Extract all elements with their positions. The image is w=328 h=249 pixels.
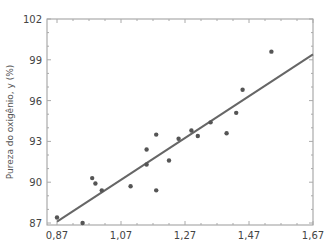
- y-tick-label: 102: [23, 14, 42, 25]
- data-point: [240, 88, 244, 92]
- data-point: [269, 49, 273, 53]
- data-point: [144, 147, 148, 151]
- regression-line: [57, 54, 313, 221]
- x-tick-label: 0,87: [46, 230, 68, 241]
- data-point: [100, 188, 104, 192]
- plot-area: [47, 19, 313, 225]
- x-tick-label: 1,27: [174, 230, 196, 241]
- data-point: [154, 132, 158, 136]
- data-point: [90, 176, 94, 180]
- plot-border: [47, 19, 313, 225]
- y-axis: 8790939699102: [23, 14, 313, 229]
- y-tick-label: 90: [29, 177, 42, 188]
- data-point: [93, 181, 97, 185]
- data-point: [55, 215, 59, 219]
- data-point: [189, 128, 193, 132]
- data-point: [234, 111, 238, 115]
- y-tick-label: 99: [29, 55, 42, 66]
- y-tick-label: 87: [29, 218, 42, 229]
- data-points: [55, 49, 274, 225]
- data-point: [208, 120, 212, 124]
- x-tick-label: 1,07: [110, 230, 132, 241]
- data-point: [80, 221, 84, 225]
- y-tick-label: 93: [29, 136, 42, 147]
- data-point: [144, 162, 148, 166]
- data-point: [154, 188, 158, 192]
- data-point: [167, 158, 171, 162]
- data-point: [196, 134, 200, 138]
- scatter-chart: 8790939699102 0,871,071,271,471,67 Purez…: [0, 0, 328, 249]
- data-point: [176, 136, 180, 140]
- data-point: [224, 131, 228, 135]
- x-axis: 0,871,071,271,471,67: [46, 19, 324, 241]
- y-tick-label: 96: [29, 96, 42, 107]
- y-axis-title: Pureza do oxigênio, y (%): [5, 65, 15, 180]
- x-tick-label: 1,67: [302, 230, 324, 241]
- x-tick-label: 1,47: [238, 230, 260, 241]
- data-point: [128, 184, 132, 188]
